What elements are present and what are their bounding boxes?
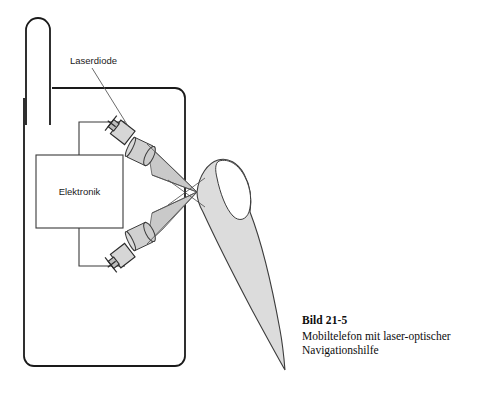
electronics-box-label: Elektronik	[59, 186, 101, 197]
laser-diode-upper	[102, 113, 136, 145]
laserdiode-callout: Laserdiode	[70, 55, 128, 126]
caption-line-1: Mobiltelefon mit laser-optischer	[302, 329, 478, 344]
antenna	[26, 18, 50, 125]
laserdiode-leader-line	[92, 68, 128, 126]
laserdiode-label: Laserdiode	[70, 55, 117, 66]
figure-page: Elektronik	[0, 0, 486, 396]
figure-caption: Bild 21-5 Mobiltelefon mit laser-optisch…	[302, 313, 478, 358]
electronics-box: Elektronik	[36, 155, 123, 228]
caption-description: Mobiltelefon mit laser-optischer Navigat…	[302, 329, 478, 358]
caption-line-2: Navigationshilfe	[302, 343, 478, 358]
finger-group	[197, 159, 285, 370]
laser-diode-lower	[102, 243, 136, 275]
caption-number: Bild 21-5	[302, 313, 478, 328]
